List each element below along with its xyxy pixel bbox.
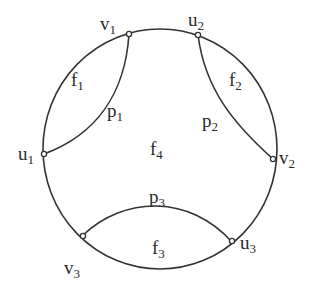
planar-graph-diagram: v1 u2 u1 v2 v3 u3 p1 p2 p3 f1 f2 f3 f4: [0, 0, 311, 295]
label-v1: v1: [100, 13, 116, 37]
node-u1: [41, 151, 46, 156]
label-f1: f1: [71, 69, 84, 93]
label-f2: f2: [229, 69, 242, 93]
label-u3: u3: [240, 232, 256, 256]
label-p3: p3: [149, 186, 165, 210]
label-p1: p1: [107, 100, 123, 124]
node-u2: [195, 32, 200, 37]
node-v3: [80, 233, 85, 238]
label-u1: u1: [18, 143, 34, 167]
node-v2: [270, 156, 275, 161]
label-p2: p2: [202, 110, 218, 134]
node-v1: [126, 31, 131, 36]
path-p2: [198, 35, 273, 159]
label-v3: v3: [64, 257, 80, 281]
label-u2: u2: [188, 9, 204, 33]
label-f4: f4: [150, 138, 163, 162]
node-u3: [229, 238, 234, 243]
label-f3: f3: [152, 237, 165, 261]
label-v2: v2: [279, 147, 295, 171]
